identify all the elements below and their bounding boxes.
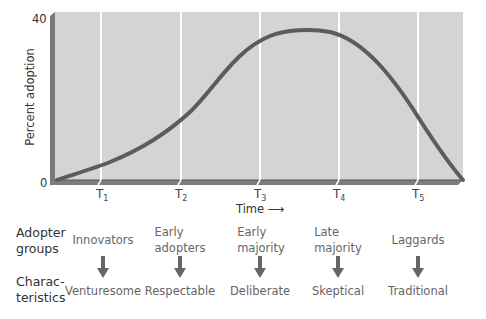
down-arrow-icon (97, 256, 109, 278)
y-tick-bottom: 0 (40, 176, 47, 190)
characteristic-respectable: Respectable (145, 284, 215, 298)
down-arrow-icon (174, 256, 186, 278)
group-early-majority: Earlymajority (237, 224, 285, 256)
adoption-chart (0, 0, 486, 210)
tick-t5: T5 (412, 187, 424, 203)
x-axis-label: Time ⟶ (236, 202, 284, 216)
right-arrow-icon: ⟶ (268, 202, 285, 216)
tick-t3: T3 (254, 187, 266, 203)
characteristic-venturesome: Venturesome (65, 284, 141, 298)
down-arrow-icon (332, 256, 344, 278)
group-early-adopters: Earlyadopters (155, 224, 206, 256)
adopter-groups-label: Adoptergroups (16, 225, 66, 257)
tick-t2: T2 (175, 187, 187, 203)
characteristic-skeptical: Skeptical (312, 284, 364, 298)
y-axis-edge (50, 12, 55, 186)
characteristics-label: Charac-teristics (16, 274, 65, 306)
y-tick-top: 40 (32, 12, 47, 26)
tick-t1: T1 (96, 187, 108, 203)
x-axis-edge (50, 180, 463, 185)
characteristic-deliberate: Deliberate (230, 284, 290, 298)
group-late-majority: Latemajority (314, 224, 362, 256)
down-arrow-icon (412, 256, 424, 278)
group-innovators: Innovators (72, 232, 133, 248)
y-axis-label: Percent adoption (23, 47, 37, 147)
down-arrow-icon (254, 256, 266, 278)
tick-t4: T4 (333, 187, 345, 203)
group-laggards: Laggards (392, 232, 445, 248)
characteristic-traditional: Traditional (388, 284, 448, 298)
